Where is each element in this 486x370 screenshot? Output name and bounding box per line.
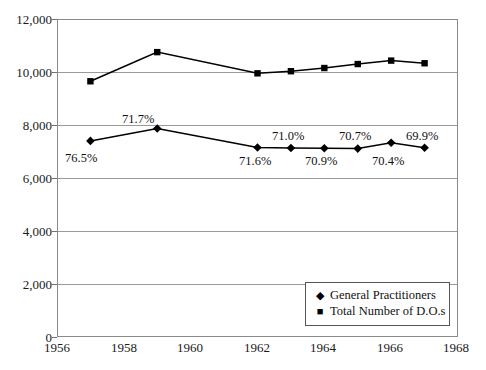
y-tick-label: 8,000 bbox=[0, 119, 52, 132]
square-marker-icon: ■ bbox=[314, 305, 326, 319]
legend-item-general-practitioners: ◆ General Practitioners bbox=[314, 288, 441, 304]
data-label-1966: 70.4% bbox=[372, 155, 404, 168]
gridline-10000 bbox=[58, 72, 457, 73]
y-tick-mark bbox=[52, 284, 57, 285]
gridline-4000 bbox=[58, 231, 457, 232]
data-label-1957: 76.5% bbox=[65, 152, 97, 165]
chart-legend: ◆ General Practitioners ■ Total Number o… bbox=[305, 282, 450, 326]
y-tick-label: 2,000 bbox=[0, 278, 52, 291]
y-tick-label: 10,000 bbox=[0, 66, 52, 79]
data-label-1967: 69.9% bbox=[406, 130, 438, 143]
x-tick-label: 1960 bbox=[167, 341, 213, 354]
data-label-1962: 71.6% bbox=[239, 155, 271, 168]
data-label-1964: 70.9% bbox=[305, 155, 337, 168]
x-tick-label: 1964 bbox=[300, 341, 346, 354]
y-tick-mark bbox=[52, 231, 57, 232]
data-label-1959: 71.7% bbox=[122, 113, 154, 126]
legend-item-label: Total Number of D.O.s bbox=[330, 304, 445, 320]
x-tick-label: 1958 bbox=[101, 341, 147, 354]
y-tick-label: 6,000 bbox=[0, 172, 52, 185]
y-axis: 12,000 10,000 8,000 6,000 4,000 2,000 0 bbox=[0, 0, 52, 370]
x-tick-label: 1966 bbox=[367, 341, 413, 354]
y-tick-mark bbox=[52, 19, 57, 20]
legend-item-total-number-of-dos: ■ Total Number of D.O.s bbox=[314, 304, 441, 320]
diamond-marker-icon: ◆ bbox=[314, 289, 326, 303]
x-tick-label: 1956 bbox=[34, 341, 80, 354]
x-axis: 1956 1958 1960 1962 1964 1966 1968 bbox=[0, 341, 486, 361]
data-label-1963: 71.0% bbox=[272, 130, 304, 143]
y-tick-label: 4,000 bbox=[0, 225, 52, 238]
y-tick-mark bbox=[52, 72, 57, 73]
y-tick-label: 12,000 bbox=[0, 13, 52, 26]
gridline-6000 bbox=[58, 178, 457, 179]
gridline-8000 bbox=[58, 125, 457, 126]
chart-page: 12,000 10,000 8,000 6,000 4,000 2,000 0 … bbox=[0, 0, 486, 370]
x-tick-label: 1962 bbox=[234, 341, 280, 354]
y-tick-mark bbox=[52, 125, 57, 126]
legend-item-label: General Practitioners bbox=[330, 288, 436, 304]
y-tick-mark bbox=[52, 337, 57, 338]
y-tick-mark bbox=[52, 178, 57, 179]
data-label-1965: 70.7% bbox=[339, 130, 371, 143]
x-tick-label: 1968 bbox=[433, 341, 479, 354]
